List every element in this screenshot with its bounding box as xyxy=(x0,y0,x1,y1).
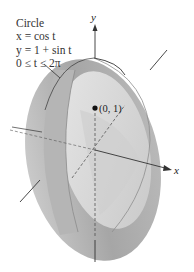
caption-x-eq: x = cos t xyxy=(16,30,71,43)
caption-t-range: 0 ≤ t ≤ 2π xyxy=(16,57,71,70)
caption-title: Circle xyxy=(16,17,71,30)
caption-y-eq: y = 1 + sin t xyxy=(16,44,71,57)
point-label: (0, 1) xyxy=(99,103,122,114)
x-axis-label: x xyxy=(174,164,179,176)
y-axis-label: y xyxy=(91,11,96,23)
z-axis-upper xyxy=(150,50,167,70)
y-axis-arrow xyxy=(93,24,98,31)
curve-caption: Circle x = cos t y = 1 + sin t 0 ≤ t ≤ 2… xyxy=(16,17,71,71)
point-0-1 xyxy=(92,105,97,110)
x-axis-arrow xyxy=(163,165,172,171)
